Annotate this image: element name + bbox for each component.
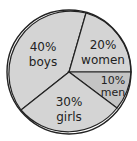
label-boys-pct: 40% — [30, 40, 57, 54]
label-women-pct: 20% — [90, 38, 117, 52]
label-men-name: men — [101, 86, 125, 99]
pie-chart: 40% boys 20% women 10% men 30% girls — [0, 0, 137, 141]
label-girls-pct: 30% — [56, 95, 83, 109]
label-women-name: women — [81, 53, 125, 67]
label-girls-name: girls — [56, 110, 81, 124]
label-boys-name: boys — [29, 55, 57, 69]
